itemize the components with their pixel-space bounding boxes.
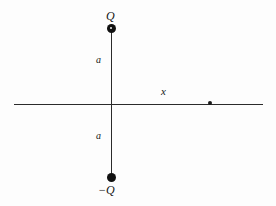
lower-separation-label: a [96, 131, 101, 141]
upper-separation-label: a [96, 55, 101, 65]
positive-charge-marker [107, 24, 116, 33]
field-point-marker [208, 101, 212, 105]
x-axis-label: x [161, 86, 166, 97]
positive-charge-label: Q [106, 10, 115, 22]
negative-charge-marker [107, 173, 116, 182]
dipole-axis-line [111, 28, 112, 178]
dipole-diagram: Q −Q a a x [0, 0, 276, 206]
x-axis-line [14, 104, 263, 105]
negative-charge-label: −Q [98, 184, 115, 196]
